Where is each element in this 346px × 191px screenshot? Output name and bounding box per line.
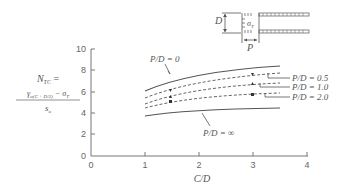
x-tick-2: 2 xyxy=(196,160,201,170)
svg-text:NTC =: NTC = xyxy=(36,73,60,85)
inset-label-sigma: σT xyxy=(247,19,255,29)
inset-label-D: D xyxy=(214,15,223,26)
y-tick-6: 6 xyxy=(81,87,86,97)
inset-label-P: P xyxy=(246,42,253,53)
x-axis-label: C/D xyxy=(194,173,211,184)
marker-2.0-right xyxy=(251,93,254,96)
y-tick-10: 10 xyxy=(76,44,86,54)
label-pd-0: P/D = 0 xyxy=(149,54,180,64)
inset-tunnel-diagram: D σT P xyxy=(214,13,309,53)
x-tick-3: 3 xyxy=(250,160,255,170)
y-tick-0: 0 xyxy=(81,151,86,161)
x-tick-1: 1 xyxy=(142,160,147,170)
x-tick-0: 0 xyxy=(88,160,93,170)
marker-2.0-left xyxy=(169,100,172,103)
lining-top xyxy=(259,13,309,16)
y-tick-2: 2 xyxy=(81,129,86,139)
label-pd-1.0: P/D = 1.0 xyxy=(291,82,329,92)
svg-text:γu(C + D/2) − σT: γu(C + D/2) − σT xyxy=(27,89,70,99)
leader-lines xyxy=(165,64,290,126)
label-pd-inf: P/D = ∞ xyxy=(202,128,235,138)
y-tick-8: 8 xyxy=(81,65,86,75)
markers xyxy=(169,73,254,103)
curve-pd-inf xyxy=(145,108,280,116)
y-tick-4: 4 xyxy=(81,108,86,118)
chart-canvas: 10 8 6 4 2 0 0 1 2 3 4 C/D NTC = γu(C + … xyxy=(0,0,346,191)
curves xyxy=(145,66,280,116)
marker-0.5-left xyxy=(169,89,172,92)
label-pd-2.0: P/D = 2.0 xyxy=(291,92,329,102)
marker-1.0-right xyxy=(251,82,254,85)
axes xyxy=(91,49,308,156)
lining-bottom xyxy=(259,30,309,33)
y-axis-label: NTC = γu(C + D/2) − σT su xyxy=(16,73,80,114)
curve-pd-2.0 xyxy=(145,93,280,108)
x-tick-4: 4 xyxy=(304,160,309,170)
svg-text:su: su xyxy=(45,103,52,114)
